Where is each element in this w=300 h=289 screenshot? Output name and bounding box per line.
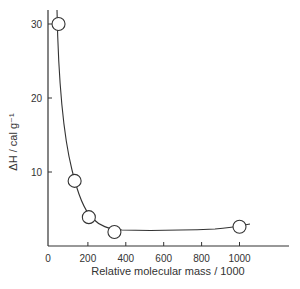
y-tick-label: 30 [31,19,43,30]
data-point-circle [68,174,81,187]
x-tick-label: 600 [155,253,172,264]
data-point-circle [82,211,95,224]
data-point-circle [52,18,65,31]
chart: 02004006008001000 102030 Relative molecu… [0,0,300,289]
y-ticks: 102030 [31,19,52,178]
x-ticks: 02004006008001000 [45,242,251,264]
y-tick-label: 10 [31,167,43,178]
data-point-circle [108,225,121,238]
x-axis-label: Relative molecular mass / 1000 [91,265,244,277]
fitted-curve [57,10,250,230]
x-tick-label: 200 [80,253,97,264]
data-point-circle [233,220,246,233]
x-tick-label: 0 [45,253,51,264]
y-axis-label: ΔH / cal g⁻¹ [7,113,19,171]
x-tick-label: 800 [193,253,210,264]
x-tick-label: 400 [117,253,134,264]
y-tick-label: 20 [31,93,43,104]
data-points [52,18,246,239]
x-tick-label: 1000 [228,253,251,264]
